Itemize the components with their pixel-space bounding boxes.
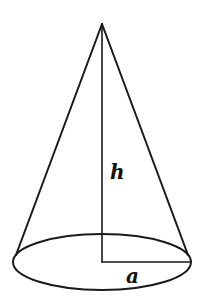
cone-left-slant-edge (16, 24, 102, 255)
cone-right-slant-edge (102, 24, 188, 255)
height-label: h (110, 162, 125, 182)
radius-label: a (126, 266, 139, 286)
cone-diagram (0, 0, 202, 299)
